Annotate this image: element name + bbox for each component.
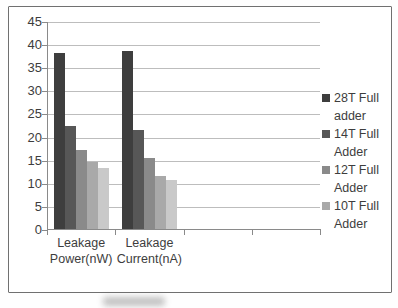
y-axis-tick: [42, 207, 47, 208]
gridline: [48, 45, 320, 46]
y-axis-tick: [42, 138, 47, 139]
plot-area: [47, 22, 320, 230]
y-axis-tick-label: 20: [14, 131, 42, 145]
y-axis-tick-label: 35: [14, 61, 42, 75]
y-axis-tick: [42, 22, 47, 23]
y-axis-tick: [42, 114, 47, 115]
bar-10t-full-adder: [155, 176, 166, 229]
legend-entry: 28T Full adder: [322, 89, 392, 125]
bar-14t-full-adder: [65, 126, 76, 229]
legend-entry: 14T Full Adder: [322, 125, 392, 161]
gridline: [48, 114, 320, 115]
legend-entry: 12T Full Adder: [322, 161, 392, 197]
bar-28t-full-adder: [122, 51, 133, 229]
x-category-label: Leakage Current(nA): [115, 235, 183, 267]
legend-label: 28T Full adder: [334, 89, 392, 125]
y-axis-tick: [42, 184, 47, 185]
bar-unlabeled-series: [166, 180, 177, 229]
x-axis-tick: [184, 230, 185, 235]
y-axis-tick-label: 15: [14, 154, 42, 168]
gridline: [48, 138, 320, 139]
bar-10t-full-adder: [87, 162, 98, 229]
x-category-label: Leakage Power(nW): [47, 235, 115, 267]
legend-entry: 10T Full Adder: [322, 197, 392, 233]
y-axis-tick: [42, 68, 47, 69]
legend-label: 14T Full Adder: [334, 125, 392, 161]
y-axis-tick-label: 0: [14, 223, 42, 237]
chart-screenshot: 28T Full adder14T Full Adder12T Full Add…: [0, 0, 398, 308]
y-axis-tick-label: 40: [14, 38, 42, 52]
y-axis-line: [47, 22, 48, 231]
legend-label: 12T Full Adder: [334, 161, 392, 197]
bar-12t-full-adder: [76, 150, 87, 229]
y-axis-tick: [42, 91, 47, 92]
legend-swatch-icon: [322, 130, 330, 138]
x-axis-tick: [252, 230, 253, 235]
bar-unlabeled-series: [98, 168, 109, 229]
gridline: [48, 91, 320, 92]
y-axis-tick-label: 45: [14, 15, 42, 29]
legend-swatch-icon: [322, 202, 330, 210]
x-axis-tick: [320, 230, 321, 235]
y-axis-tick: [42, 45, 47, 46]
legend-label: 10T Full Adder: [334, 197, 392, 233]
gridline: [48, 22, 320, 23]
bar-14t-full-adder: [133, 130, 144, 229]
cropped-caption-fragment: [103, 297, 165, 306]
legend: 28T Full adder14T Full Adder12T Full Add…: [322, 89, 392, 233]
y-axis-tick-label: 25: [14, 107, 42, 121]
y-axis-tick-label: 10: [14, 177, 42, 191]
bar-28t-full-adder: [54, 53, 65, 229]
y-axis-tick: [42, 161, 47, 162]
legend-swatch-icon: [322, 166, 330, 174]
y-axis-tick-label: 5: [14, 200, 42, 214]
gridline: [48, 68, 320, 69]
bar-12t-full-adder: [144, 158, 155, 229]
legend-swatch-icon: [322, 94, 330, 102]
y-axis-tick-label: 30: [14, 84, 42, 98]
